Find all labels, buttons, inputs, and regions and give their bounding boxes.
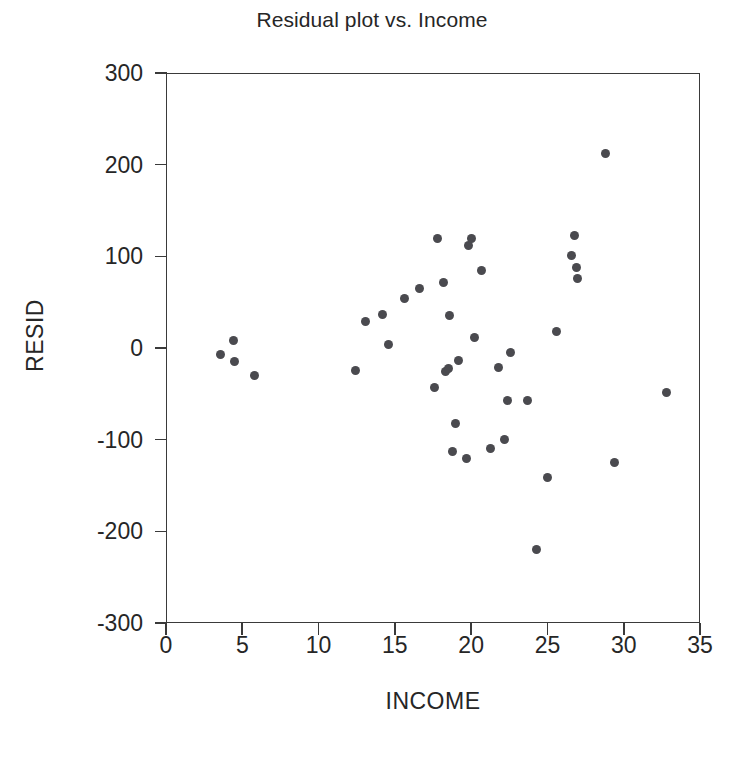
x-axis-tick-mark bbox=[547, 623, 549, 635]
plot-frame bbox=[166, 73, 700, 623]
y-axis-tick-mark bbox=[155, 164, 167, 166]
y-axis-tick-mark bbox=[155, 256, 167, 258]
x-axis-tick-label: 10 bbox=[306, 632, 332, 659]
x-axis-tick-label: 5 bbox=[236, 632, 249, 659]
x-axis-tick-mark bbox=[241, 623, 243, 635]
x-axis-label: INCOME bbox=[166, 688, 700, 715]
y-axis-tick-label: 0 bbox=[130, 335, 143, 362]
y-axis-tick-label: -100 bbox=[97, 426, 143, 453]
y-axis-tick-mark bbox=[155, 347, 167, 349]
x-axis-tick-label: 15 bbox=[382, 632, 408, 659]
x-axis-tick-label: 20 bbox=[458, 632, 484, 659]
y-axis-label: RESID bbox=[22, 256, 49, 416]
y-axis-tick-mark bbox=[155, 531, 167, 533]
y-axis-tick-label: -300 bbox=[97, 610, 143, 637]
x-axis-tick-mark bbox=[318, 623, 320, 635]
x-axis-tick-mark bbox=[470, 623, 472, 635]
residual-scatter-figure: Residual plot vs. Income 3002001000-100-… bbox=[0, 0, 744, 763]
x-axis-tick-label: 30 bbox=[611, 632, 637, 659]
y-axis-tick-mark bbox=[155, 439, 167, 441]
y-axis-tick-label: 200 bbox=[105, 151, 143, 178]
y-axis-tick-label: 100 bbox=[105, 243, 143, 270]
y-axis-tick-label: -200 bbox=[97, 518, 143, 545]
x-axis-tick-label: 25 bbox=[535, 632, 561, 659]
x-axis-tick-label: 35 bbox=[687, 632, 713, 659]
y-axis-tick-mark bbox=[155, 72, 167, 74]
y-axis-tick-label: 300 bbox=[105, 60, 143, 87]
x-axis-tick-label: 0 bbox=[160, 632, 173, 659]
x-axis-tick-mark bbox=[623, 623, 625, 635]
x-axis-tick-mark bbox=[699, 623, 701, 635]
x-axis-tick-mark bbox=[165, 623, 167, 635]
x-axis-tick-mark bbox=[394, 623, 396, 635]
